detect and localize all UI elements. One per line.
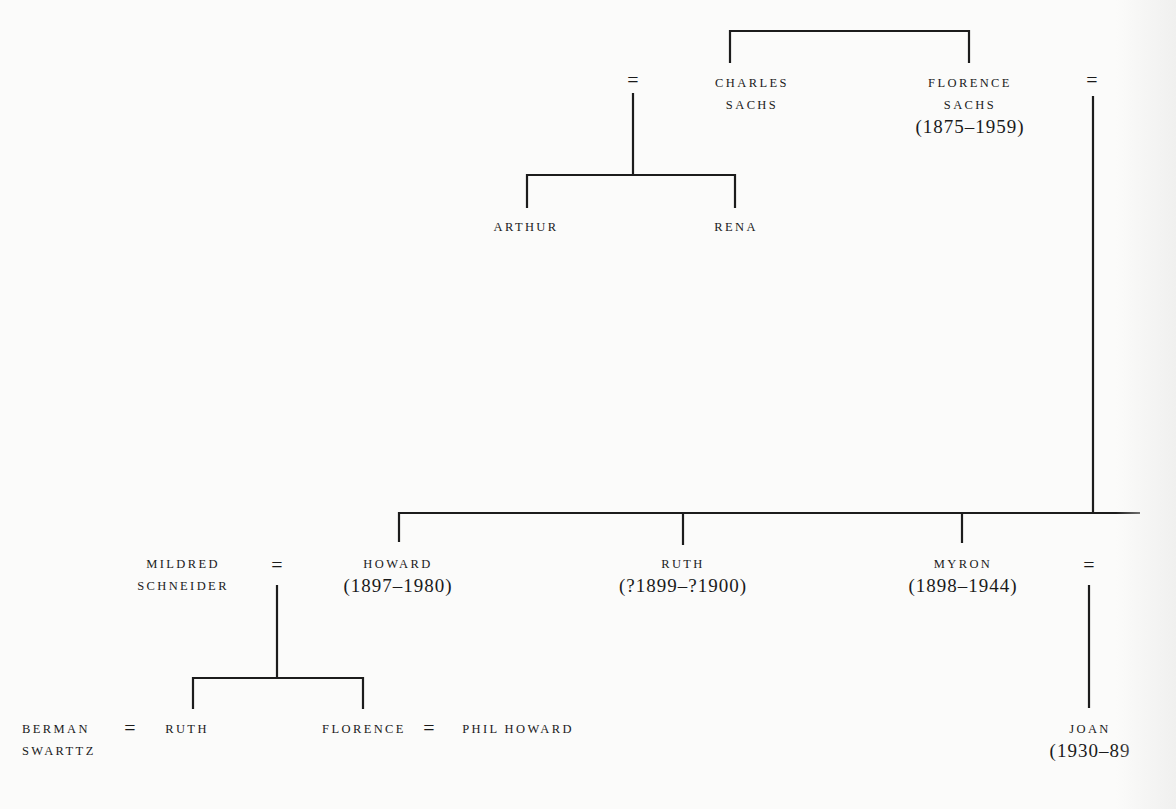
person-rena: RENA xyxy=(714,216,758,238)
person-name: MYRON xyxy=(908,553,1017,575)
marriage-symbol-charles: = xyxy=(627,70,638,90)
person-howard: HOWARD (1897–1980) xyxy=(343,553,452,597)
marriage-symbol-florence-jr: = xyxy=(423,718,434,738)
person-dates: (1897–1980) xyxy=(343,575,452,597)
person-name: BERMAN xyxy=(22,718,96,740)
person-berman-swarttz: BERMAN SWARTTZ xyxy=(22,718,96,762)
person-name: ARTHUR xyxy=(493,216,558,238)
person-name: JOAN xyxy=(1050,718,1131,740)
person-mildred-schneider: MILDRED SCHNEIDER xyxy=(137,553,229,597)
person-name: CHARLES xyxy=(715,72,789,94)
person-name: RUTH xyxy=(619,553,747,575)
person-joan: JOAN (1930–89 xyxy=(1050,718,1131,762)
person-name: FLORENCE xyxy=(915,72,1024,94)
person-arthur: ARTHUR xyxy=(493,216,558,238)
person-dates: (1930–89 xyxy=(1050,740,1131,762)
marriage-symbol-howard: = xyxy=(271,555,282,575)
person-ruth-1899: RUTH (?1899–?1900) xyxy=(619,553,747,597)
person-florence-sachs: FLORENCE SACHS (1875–1959) xyxy=(915,72,1024,138)
person-name: SACHS xyxy=(715,94,789,116)
person-charles-sachs: CHARLES SACHS xyxy=(715,72,789,116)
person-florence: FLORENCE xyxy=(322,718,406,740)
person-name: MILDRED xyxy=(137,553,229,575)
person-ruth: RUTH xyxy=(165,718,209,740)
person-name: PHIL HOWARD xyxy=(462,718,574,740)
person-name: SCHNEIDER xyxy=(137,575,229,597)
person-dates: (1898–1944) xyxy=(908,575,1017,597)
person-myron: MYRON (1898–1944) xyxy=(908,553,1017,597)
person-name: FLORENCE xyxy=(322,718,406,740)
marriage-symbol-myron: = xyxy=(1083,555,1094,575)
marriage-symbol-ruth: = xyxy=(124,718,135,738)
person-phil-howard: PHIL HOWARD xyxy=(462,718,574,740)
person-name: HOWARD xyxy=(343,553,452,575)
person-name: SACHS xyxy=(915,94,1024,116)
person-name: SWARTTZ xyxy=(22,740,96,762)
marriage-symbol-florence: = xyxy=(1086,70,1097,90)
person-name: RUTH xyxy=(165,718,209,740)
person-dates: (1875–1959) xyxy=(915,116,1024,138)
person-name: RENA xyxy=(714,216,758,238)
person-dates: (?1899–?1900) xyxy=(619,575,747,597)
